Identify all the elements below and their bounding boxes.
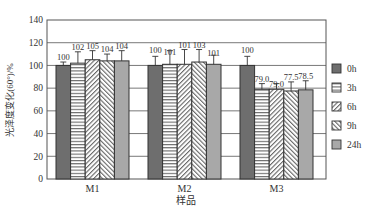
legend-item-9h: 9h bbox=[332, 121, 357, 131]
x-axis-title: 样品 bbox=[176, 194, 196, 206]
legend-label: 3h bbox=[347, 83, 357, 93]
y-axis: 020406080100120140 bbox=[29, 15, 44, 184]
legend-label: 0h bbox=[347, 64, 357, 74]
y-tick-label: 60 bbox=[34, 106, 44, 116]
bar-m3-6h bbox=[269, 89, 284, 179]
legend-item-6h: 6h bbox=[332, 102, 357, 112]
data-label: 100 bbox=[241, 45, 254, 55]
y-tick-label: 20 bbox=[34, 152, 44, 162]
y-tick-label: 80 bbox=[34, 83, 44, 93]
bar-m2-3h bbox=[163, 64, 178, 179]
data-label: 101 bbox=[207, 48, 220, 58]
bar-group-m1: 100102105104104 bbox=[56, 41, 129, 179]
legend-item-3h: 3h bbox=[332, 83, 357, 93]
bar-chart: 10010210510410410010110110310110079.079.… bbox=[0, 0, 372, 216]
data-label: 101 bbox=[164, 47, 177, 57]
legend-swatch bbox=[332, 140, 341, 149]
data-label: 104 bbox=[101, 44, 115, 54]
data-label: 102 bbox=[72, 42, 85, 52]
y-tick-label: 100 bbox=[29, 61, 44, 71]
bar-m1-0h bbox=[56, 65, 71, 179]
legend: 0h3h6h9h24h bbox=[332, 64, 362, 150]
y-tick-label: 120 bbox=[29, 38, 44, 48]
data-label: 78.5 bbox=[298, 71, 313, 81]
data-label: 100 bbox=[57, 52, 70, 62]
bar-m2-6h bbox=[177, 64, 192, 179]
bar-m3-0h bbox=[240, 65, 255, 179]
bar-m3-24h bbox=[298, 90, 313, 179]
bar-m3-3h bbox=[255, 89, 270, 179]
data-label: 100 bbox=[149, 45, 162, 55]
legend-swatch bbox=[332, 121, 341, 130]
y-tick-label: 140 bbox=[29, 15, 44, 25]
bar-m1-6h bbox=[85, 60, 100, 179]
x-tick-label: M1 bbox=[86, 183, 100, 194]
legend-swatch bbox=[332, 64, 341, 73]
bar-m1-9h bbox=[100, 61, 115, 179]
y-tick-label: 0 bbox=[38, 174, 43, 184]
data-label: 79.0 bbox=[269, 79, 284, 89]
legend-label: 24h bbox=[347, 140, 362, 150]
legend-swatch bbox=[332, 83, 341, 92]
legend-swatch bbox=[332, 102, 341, 111]
bar-m1-24h bbox=[114, 61, 129, 179]
data-label: 104 bbox=[115, 41, 129, 51]
x-tick-label: M2 bbox=[178, 183, 192, 194]
legend-item-0h: 0h bbox=[332, 64, 357, 74]
bar-m2-24h bbox=[206, 64, 221, 179]
x-axis: M1M2M3 bbox=[86, 183, 284, 194]
bar-m2-0h bbox=[148, 65, 163, 179]
data-label: 77.5 bbox=[284, 72, 299, 82]
y-axis-title: 光泽度变化(60°)/% bbox=[4, 63, 15, 137]
legend-label: 6h bbox=[347, 102, 357, 112]
legend-item-24h: 24h bbox=[332, 140, 362, 150]
data-label: 101 bbox=[178, 40, 191, 50]
data-label: 103 bbox=[193, 40, 206, 50]
x-tick-label: M3 bbox=[270, 183, 284, 194]
data-label: 105 bbox=[86, 41, 99, 51]
data-label: 79.0 bbox=[254, 74, 269, 84]
bar-m3-9h bbox=[284, 91, 299, 179]
y-tick-label: 40 bbox=[34, 129, 44, 139]
bar-m1-3h bbox=[71, 63, 86, 179]
legend-label: 9h bbox=[347, 121, 357, 131]
bar-m2-9h bbox=[192, 62, 207, 179]
